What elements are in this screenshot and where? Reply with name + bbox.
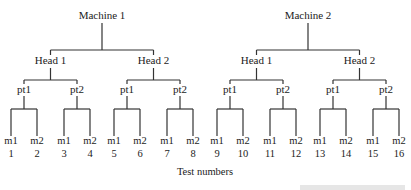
test-number: 16 [394, 148, 405, 159]
measure-label: m2 [339, 135, 352, 146]
pt-label: pt2 [173, 83, 187, 95]
test-number: 6 [137, 148, 142, 159]
pt-label: pt1 [120, 83, 134, 95]
caption-test-numbers: Test numbers [177, 166, 233, 177]
measure-label: m2 [83, 135, 96, 146]
cut-off-text-fragment [300, 185, 405, 190]
test-number: 1 [8, 148, 13, 159]
head-label: Head 2 [344, 54, 375, 66]
measure-label: m1 [210, 135, 223, 146]
test-number: 11 [265, 148, 275, 159]
measure-label: m2 [392, 135, 405, 146]
measure-label: m2 [186, 135, 199, 146]
machine-1-label: Machine 1 [79, 9, 126, 21]
measure-label: m2 [133, 135, 146, 146]
test-number: 14 [341, 148, 352, 159]
measure-label: m1 [263, 135, 276, 146]
test-number: 15 [368, 148, 379, 159]
measure-label: m2 [236, 135, 249, 146]
head-label: Head 1 [35, 54, 66, 66]
pt-label: pt1 [223, 83, 237, 95]
machine-2-label: Machine 2 [285, 9, 332, 21]
measure-label: m1 [366, 135, 379, 146]
test-number: 5 [111, 148, 116, 159]
pt-label: pt1 [326, 83, 340, 95]
test-number: 2 [34, 148, 39, 159]
measure-label: m1 [160, 135, 173, 146]
measure-label: m2 [30, 135, 43, 146]
pt-label: pt2 [276, 83, 290, 95]
head-label: Head 1 [241, 54, 272, 66]
measure-label: m2 [289, 135, 302, 146]
pt-label: pt2 [379, 83, 393, 95]
test-number: 4 [87, 148, 93, 159]
test-number: 7 [164, 148, 169, 159]
test-number: 8 [190, 148, 195, 159]
test-number: 3 [61, 148, 66, 159]
test-number: 9 [214, 148, 219, 159]
test-number: 13 [315, 148, 326, 159]
nested-tree-diagram: Machine 1Head 1pt1m11m22pt2m13m24Head 2p… [0, 0, 411, 190]
measure-label: m1 [4, 135, 17, 146]
head-label: Head 2 [138, 54, 169, 66]
pt-label: pt1 [17, 83, 31, 95]
pt-label: pt2 [70, 83, 84, 95]
measure-label: m1 [57, 135, 70, 146]
measure-label: m1 [107, 135, 120, 146]
test-number: 10 [238, 148, 249, 159]
measure-label: m1 [313, 135, 326, 146]
test-number: 12 [291, 148, 302, 159]
